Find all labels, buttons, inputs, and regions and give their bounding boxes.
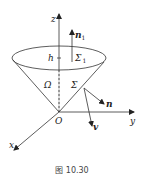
y-axis-label: y: [129, 116, 136, 126]
cone-diagram: z y x O h Σ1 n1 Ω Σ n v 图 10.30: [0, 0, 145, 183]
z-axis-label: z: [50, 14, 56, 24]
velocity-label: v: [93, 122, 99, 132]
origin-label: O: [55, 116, 63, 126]
cone-left-edge: [13, 60, 59, 112]
x-axis-label: x: [9, 140, 14, 150]
lateral-surface-label: Σ: [70, 80, 78, 90]
top-normal-label: n1: [75, 30, 85, 41]
region-label: Ω: [43, 80, 52, 90]
height-label: h: [48, 53, 54, 63]
x-axis: [14, 112, 59, 150]
figure-caption: 图 10.30: [55, 166, 88, 175]
lateral-normal-label: n: [106, 99, 113, 109]
top-surface-label: Σ1: [74, 53, 86, 64]
